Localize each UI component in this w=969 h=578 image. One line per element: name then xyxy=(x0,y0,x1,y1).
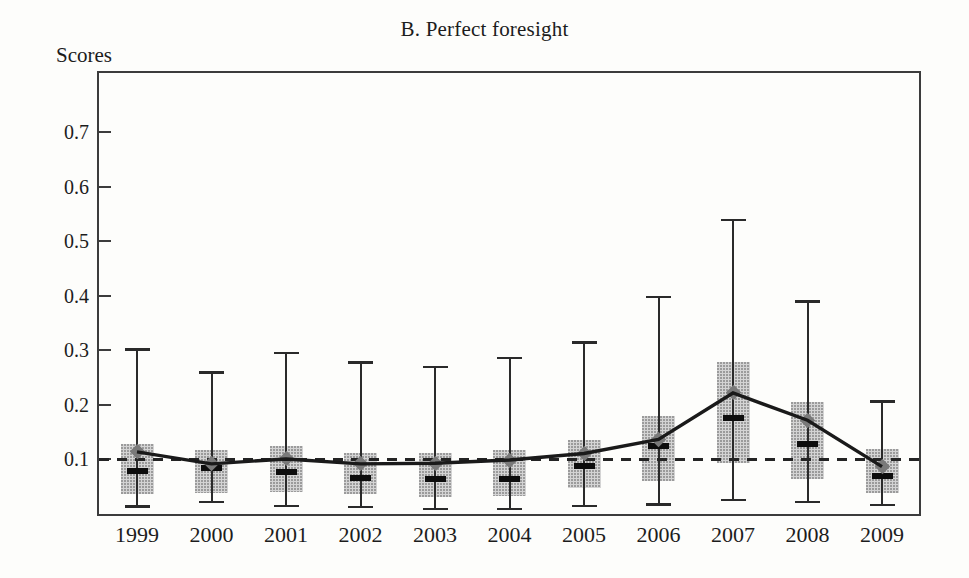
figure-panel: B. Perfect foresight Scores 0.10.20.30.4… xyxy=(0,0,969,578)
x-tick-label: 2007 xyxy=(695,522,771,548)
y-tick-label: 0.7 xyxy=(47,120,89,144)
x-tick-label: 2005 xyxy=(546,522,622,548)
chart-title: B. Perfect foresight xyxy=(0,17,969,42)
x-tick-label: 2003 xyxy=(397,522,473,548)
x-tick-label: 2001 xyxy=(248,522,324,548)
x-tick-label: 2004 xyxy=(472,522,548,548)
y-axis-title: Scores xyxy=(56,43,112,68)
x-tick-label: 2006 xyxy=(621,522,697,548)
plot-area: 0.10.20.30.40.50.60.71999200020012002200… xyxy=(97,71,921,516)
y-tick-label: 0.2 xyxy=(47,393,89,417)
y-tick-label: 0.5 xyxy=(47,229,89,253)
x-tick-label: 2002 xyxy=(323,522,399,548)
y-tick-label: 0.1 xyxy=(47,447,89,471)
y-tick-label: 0.3 xyxy=(47,338,89,362)
y-tick-label: 0.4 xyxy=(47,284,89,308)
mean-series-line xyxy=(99,73,919,514)
x-tick-label: 2000 xyxy=(174,522,250,548)
x-tick-label: 2009 xyxy=(844,522,920,548)
x-tick-label: 2008 xyxy=(770,522,846,548)
x-tick-label: 1999 xyxy=(99,522,175,548)
y-tick-label: 0.6 xyxy=(47,175,89,199)
